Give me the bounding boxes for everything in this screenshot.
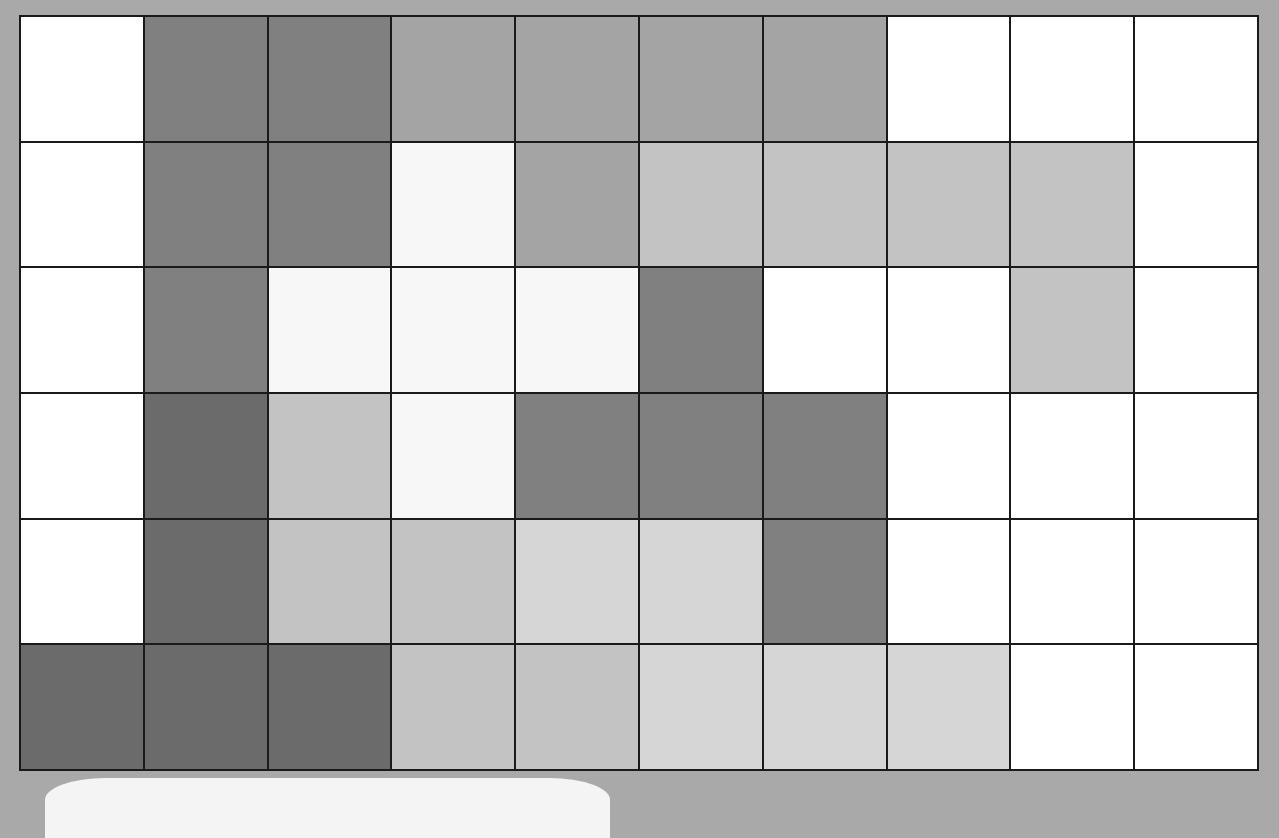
grid-cell[interactable]: [764, 268, 886, 392]
grid-cell[interactable]: [516, 520, 638, 644]
grid-cell[interactable]: [516, 645, 638, 769]
grid-cell[interactable]: [764, 17, 886, 141]
grid-cell[interactable]: [516, 143, 638, 267]
grid-cell[interactable]: [640, 143, 762, 267]
grid-cell[interactable]: [764, 520, 886, 644]
grid-cell[interactable]: [269, 143, 391, 267]
grid-cell[interactable]: [764, 143, 886, 267]
grid-cell[interactable]: [764, 645, 886, 769]
grid-cell[interactable]: [1011, 268, 1133, 392]
grid-cell[interactable]: [1135, 645, 1257, 769]
grid-cell[interactable]: [392, 520, 514, 644]
grid-cell[interactable]: [1135, 17, 1257, 141]
grid-cell[interactable]: [21, 394, 143, 518]
grid-cell[interactable]: [640, 645, 762, 769]
grid-cell[interactable]: [1135, 394, 1257, 518]
grid-cell[interactable]: [269, 520, 391, 644]
grid-cell[interactable]: [269, 394, 391, 518]
grid-cell[interactable]: [640, 17, 762, 141]
grid-cell[interactable]: [21, 520, 143, 644]
grid-cell[interactable]: [392, 17, 514, 141]
grid-cell[interactable]: [640, 520, 762, 644]
grid-cell[interactable]: [21, 645, 143, 769]
grid-cell[interactable]: [21, 143, 143, 267]
grid-cell[interactable]: [1011, 520, 1133, 644]
grid-cell[interactable]: [21, 268, 143, 392]
grid-cell[interactable]: [145, 143, 267, 267]
grid-cell[interactable]: [516, 394, 638, 518]
grid-cell[interactable]: [269, 645, 391, 769]
grid-cell[interactable]: [1011, 17, 1133, 141]
grid-cell[interactable]: [392, 645, 514, 769]
grid-cell[interactable]: [145, 17, 267, 141]
grid-cell[interactable]: [640, 394, 762, 518]
grid-cell[interactable]: [1011, 645, 1133, 769]
grid-cell[interactable]: [145, 268, 267, 392]
grid-cell[interactable]: [145, 394, 267, 518]
grid-cell[interactable]: [1011, 394, 1133, 518]
grid-cell[interactable]: [888, 394, 1010, 518]
bottom-panel: [45, 778, 610, 838]
grid-cell[interactable]: [269, 17, 391, 141]
grid-cell[interactable]: [392, 268, 514, 392]
grid-cell[interactable]: [392, 394, 514, 518]
grid-cell[interactable]: [145, 520, 267, 644]
grid-cell[interactable]: [269, 268, 391, 392]
grid-cell[interactable]: [21, 17, 143, 141]
grid-cell[interactable]: [1011, 143, 1133, 267]
grid-cell[interactable]: [640, 268, 762, 392]
grid-cell[interactable]: [888, 268, 1010, 392]
grid-cell[interactable]: [392, 143, 514, 267]
grid-cell[interactable]: [1135, 268, 1257, 392]
grid-cell[interactable]: [516, 17, 638, 141]
grid-cell[interactable]: [888, 520, 1010, 644]
grid-cell[interactable]: [888, 17, 1010, 141]
game-board: [19, 15, 1259, 771]
grid-cell[interactable]: [888, 645, 1010, 769]
grid-cell[interactable]: [145, 645, 267, 769]
grid-cell[interactable]: [764, 394, 886, 518]
grid-cell[interactable]: [1135, 520, 1257, 644]
grid-cell[interactable]: [516, 268, 638, 392]
grid-cell[interactable]: [888, 143, 1010, 267]
grid-cell[interactable]: [1135, 143, 1257, 267]
